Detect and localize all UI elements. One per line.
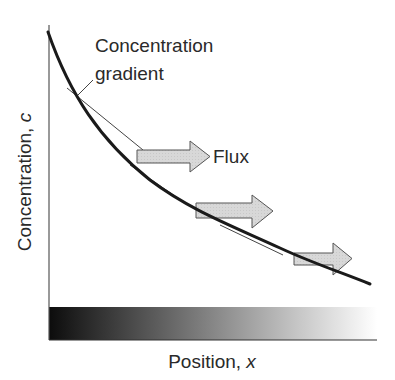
tangent-line-3 (220, 225, 283, 255)
x-axis-label: Position, x (168, 351, 257, 372)
gradient-label-line1: Concentration (95, 35, 213, 56)
concentration-gradient-bar (49, 307, 377, 340)
x-axis-label-text: Position, (168, 351, 246, 372)
y-axis-label-text: Concentration, (14, 122, 35, 251)
y-axis-label: Concentration, c (14, 112, 35, 251)
y-axis-variable: c (14, 112, 35, 122)
concentration-gradient-diagram: Concentration gradient Flux Position, x … (0, 0, 395, 380)
flux-label: Flux (213, 146, 249, 167)
gradient-leader-line (78, 80, 93, 95)
gradient-label-line2: gradient (95, 63, 164, 84)
x-axis-variable: x (245, 351, 257, 372)
flux-arrow-medium (196, 195, 273, 228)
flux-arrow-large (137, 141, 210, 172)
